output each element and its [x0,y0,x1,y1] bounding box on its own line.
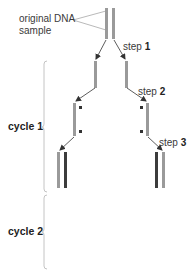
original-dna-line1: original DNA [19,13,75,25]
separated-strands [94,61,128,88]
step2-word: step [138,86,157,97]
step1-word: step [123,41,142,52]
step1-label: step 1 [123,41,150,53]
step1-number: 1 [145,41,151,52]
primers [79,106,143,133]
cycle1-label: cycle 1 [8,120,43,132]
step3-label: step 3 [159,137,186,149]
step1-arrows [96,40,125,59]
step3-word: step [159,137,178,148]
annealed-strands [73,103,149,136]
label-pointer-lines [73,11,106,30]
step3-arrows [60,137,162,150]
step2-arrows [76,88,146,101]
step2-number: 2 [160,86,166,97]
cycle1-products [57,152,165,188]
step2-label: step 2 [138,86,165,98]
cycle2-label: cycle 2 [8,225,43,237]
original-dna-strands [105,8,115,39]
original-dna-line2: sample [19,25,75,37]
step3-number: 3 [181,137,187,148]
original-dna-label: original DNA sample [19,13,75,37]
